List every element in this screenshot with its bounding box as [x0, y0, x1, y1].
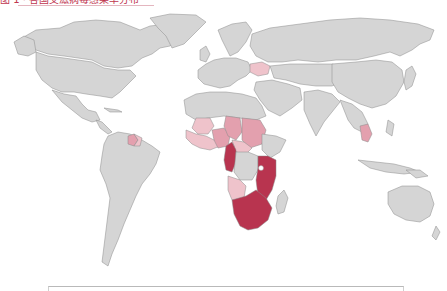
region-madagascar[interactable]: [276, 190, 288, 214]
legend-frame: [48, 286, 404, 291]
region-scandinavia[interactable]: [218, 22, 252, 56]
oceania: [388, 170, 440, 240]
region-new-guinea[interactable]: [406, 170, 428, 178]
region-japan[interactable]: [404, 66, 416, 90]
north-america: [14, 14, 206, 134]
region-australia[interactable]: [388, 186, 434, 222]
region-north-africa[interactable]: [184, 92, 266, 120]
region-new-zealand[interactable]: [432, 226, 440, 240]
africa: [184, 92, 288, 230]
region-thailand[interactable]: [360, 124, 372, 142]
region-india[interactable]: [304, 90, 340, 136]
region-ukraine[interactable]: [250, 62, 270, 76]
south-america: [100, 132, 160, 266]
region-south-america[interactable]: [100, 132, 160, 266]
region-western-europe[interactable]: [198, 58, 252, 88]
region-uk[interactable]: [200, 46, 210, 62]
region-congo[interactable]: [234, 152, 258, 180]
region-russia[interactable]: [250, 18, 434, 62]
region-horn-of-africa[interactable]: [262, 134, 286, 158]
region-lake-victoria: [259, 166, 264, 171]
region-central-america[interactable]: [96, 120, 112, 134]
region-philippines[interactable]: [386, 120, 394, 136]
region-mali[interactable]: [192, 118, 214, 134]
region-cuba[interactable]: [104, 108, 122, 112]
